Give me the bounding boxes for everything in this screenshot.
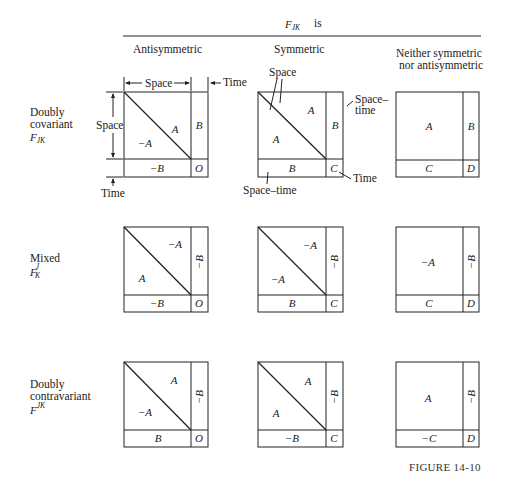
cell-r3-antisymmetric: A −A −B B O [124, 362, 208, 447]
svg-text:−A: −A [271, 273, 285, 285]
svg-text:B: B [468, 120, 475, 132]
space-dimension-top: Space [145, 77, 172, 90]
svg-text:Mixed: Mixed [30, 252, 60, 264]
figure-caption: FIGURE 14-10 [409, 461, 481, 473]
cell-r1-antisymmetric: A −A B −B O [124, 92, 208, 177]
cell-r3-symmetric: A A −B −B C [258, 362, 343, 447]
svg-text:−B: −B [465, 390, 477, 404]
svg-text:−C: −C [422, 432, 437, 444]
svg-text:C: C [330, 432, 338, 444]
column-symmetric: Symmetric [274, 43, 324, 56]
sym-space-label: Space [269, 66, 296, 79]
row-label-doubly-covariant: Doubly covariant FJK [29, 106, 74, 145]
cell-r1-symmetric: A A B B C [258, 92, 343, 177]
dimension-annotations: Space Time Space Time Space Space– time … [96, 66, 388, 199]
svg-text:A: A [307, 104, 315, 116]
svg-text:−B: −B [193, 255, 205, 269]
cell-r2-neither: −A −B C D [396, 227, 479, 312]
svg-text:B: B [155, 432, 162, 444]
svg-text:−B: −B [150, 162, 164, 174]
svg-text:−A: −A [138, 137, 152, 149]
svg-text:FJK: FJK [29, 262, 41, 280]
tensor-symmetry-figure: FJK is Antisymmetric Symmetric Neither s… [0, 0, 506, 484]
header-title: FJK [284, 18, 301, 32]
svg-text:D: D [466, 297, 475, 309]
svg-text:A: A [138, 272, 146, 284]
svg-text:O: O [195, 162, 203, 174]
header-title-suffix: is [314, 17, 322, 29]
svg-text:FJK: FJK [29, 401, 46, 416]
svg-text:D: D [466, 432, 475, 444]
cell-r3-neither: A −B −C D [396, 362, 479, 447]
svg-text:−B: −B [328, 390, 340, 404]
svg-text:−B: −B [150, 297, 164, 309]
svg-text:−A: −A [421, 256, 435, 268]
svg-text:A: A [272, 133, 280, 145]
svg-text:B: B [289, 162, 296, 174]
row-label-doubly-contravariant: Doubly contravariant FJK [29, 378, 91, 416]
cell-r1-neither: A B C D [396, 92, 479, 177]
svg-text:−A: −A [303, 239, 317, 251]
svg-text:O: O [195, 432, 203, 444]
svg-text:O: O [195, 297, 203, 309]
column-neither-line2: nor antisymmetric [399, 59, 483, 72]
svg-text:A: A [425, 120, 433, 132]
svg-text:D: D [466, 162, 475, 174]
time-dimension-top: Time [223, 76, 247, 88]
svg-text:A: A [170, 374, 178, 386]
space-dimension-left: Space [96, 119, 123, 132]
row-label-mixed: Mixed FJK [29, 252, 60, 280]
header: FJK is Antisymmetric Symmetric Neither s… [123, 17, 483, 72]
svg-text:A: A [304, 375, 312, 387]
svg-text:C: C [330, 297, 338, 309]
svg-text:covariant: covariant [30, 118, 74, 130]
svg-text:−B: −B [285, 432, 299, 444]
sym-spacetime-bottom: Space–time [243, 184, 297, 197]
column-antisymmetric: Antisymmetric [133, 43, 202, 56]
svg-text:B: B [196, 119, 203, 131]
svg-text:−B: −B [193, 390, 205, 404]
cell-r2-symmetric: −A −A −B B C [258, 227, 343, 312]
sym-spacetime-right-2: time [355, 104, 375, 116]
svg-text:C: C [330, 162, 338, 174]
svg-text:−B: −B [328, 255, 340, 269]
svg-text:B: B [332, 119, 339, 131]
sym-time-label: Time [353, 172, 377, 184]
svg-text:A: A [272, 407, 280, 419]
cell-r2-antisymmetric: −A A −B −B O [124, 227, 208, 312]
svg-text:FJK: FJK [29, 131, 46, 145]
svg-text:C: C [425, 162, 433, 174]
svg-text:B: B [289, 297, 296, 309]
svg-text:C: C [425, 297, 433, 309]
svg-text:−A: −A [138, 406, 152, 418]
svg-text:A: A [171, 123, 179, 135]
svg-text:−A: −A [168, 238, 182, 250]
time-dimension-bottom: Time [101, 187, 125, 199]
svg-text:A: A [424, 392, 432, 404]
svg-text:−B: −B [465, 255, 477, 269]
